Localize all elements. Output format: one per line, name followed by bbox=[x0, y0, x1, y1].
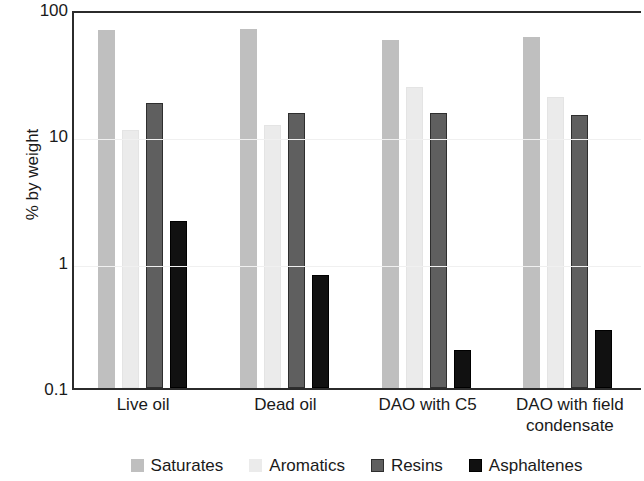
bar-asphaltenes-dead-oil[interactable] bbox=[312, 275, 329, 388]
bar-group-dao-with-c5 bbox=[358, 13, 500, 388]
legend-item-saturates[interactable]: Saturates bbox=[131, 457, 224, 474]
legend-swatch-resins-icon bbox=[371, 459, 384, 472]
bar-saturates-dead-oil[interactable] bbox=[240, 29, 257, 388]
plot-area bbox=[72, 11, 641, 390]
bar-saturates-live-oil[interactable] bbox=[98, 30, 115, 388]
x-axis-label-live-oil: Live oil bbox=[72, 394, 214, 440]
bars bbox=[74, 13, 216, 388]
bar-aromatics-dead-oil[interactable] bbox=[264, 125, 281, 388]
y-axis-tick-label: 100 bbox=[6, 2, 68, 19]
legend-label: Aromatics bbox=[269, 457, 345, 474]
bars bbox=[499, 13, 641, 388]
legend-swatch-aromatics-icon bbox=[249, 459, 262, 472]
bar-groups bbox=[74, 13, 641, 388]
bar-asphaltenes-live-oil[interactable] bbox=[170, 221, 187, 388]
bar-aromatics-live-oil[interactable] bbox=[122, 130, 139, 388]
y-axis-tick-labels: 1001010.1 bbox=[0, 0, 68, 400]
legend-item-resins[interactable]: Resins bbox=[371, 457, 443, 474]
y-axis-tick-label: 10 bbox=[6, 128, 68, 145]
gridline bbox=[74, 266, 641, 267]
x-axis-category-labels: Live oilDead oilDAO with C5DAO with fiel… bbox=[72, 394, 641, 440]
bars bbox=[216, 13, 358, 388]
y-axis-tick-label: 0.1 bbox=[6, 381, 68, 398]
bar-group-live-oil bbox=[74, 13, 216, 388]
legend-label: Resins bbox=[391, 457, 443, 474]
x-axis-label-dao-with-c5: DAO with C5 bbox=[357, 394, 499, 440]
bar-aromatics-dao-with-c5[interactable] bbox=[406, 87, 423, 388]
bar-resins-live-oil[interactable] bbox=[146, 103, 163, 388]
bar-resins-dao-with-c5[interactable] bbox=[430, 113, 447, 388]
legend-item-asphaltenes[interactable]: Asphaltenes bbox=[469, 457, 583, 474]
bar-resins-dao-with-field-condensate[interactable] bbox=[571, 115, 588, 388]
legend-swatch-saturates-icon bbox=[131, 459, 144, 472]
gridline bbox=[74, 139, 641, 140]
bar-saturates-dao-with-field-condensate[interactable] bbox=[523, 37, 540, 388]
x-axis-label-dao-with-field-condensate: DAO with field condensate bbox=[499, 394, 641, 440]
bar-asphaltenes-dao-with-c5[interactable] bbox=[454, 350, 471, 388]
legend-swatch-asphaltenes-icon bbox=[469, 459, 482, 472]
bar-group-dao-with-field-condensate bbox=[499, 13, 641, 388]
bar-asphaltenes-dao-with-field-condensate[interactable] bbox=[595, 330, 612, 388]
bar-aromatics-dao-with-field-condensate[interactable] bbox=[547, 97, 564, 388]
bar-group-dead-oil bbox=[216, 13, 358, 388]
legend-label: Saturates bbox=[151, 457, 224, 474]
y-axis-tick-label: 1 bbox=[6, 255, 68, 272]
legend-item-aromatics[interactable]: Aromatics bbox=[249, 457, 345, 474]
bar-saturates-dao-with-c5[interactable] bbox=[382, 40, 399, 388]
x-axis-label-dead-oil: Dead oil bbox=[214, 394, 356, 440]
bar-chart: % by weight 1001010.1 Live oilDead oilDA… bbox=[0, 0, 644, 481]
chart-legend: SaturatesAromaticsResinsAsphaltenes bbox=[72, 452, 641, 478]
bars bbox=[358, 13, 500, 388]
legend-label: Asphaltenes bbox=[489, 457, 583, 474]
bar-resins-dead-oil[interactable] bbox=[288, 113, 305, 388]
